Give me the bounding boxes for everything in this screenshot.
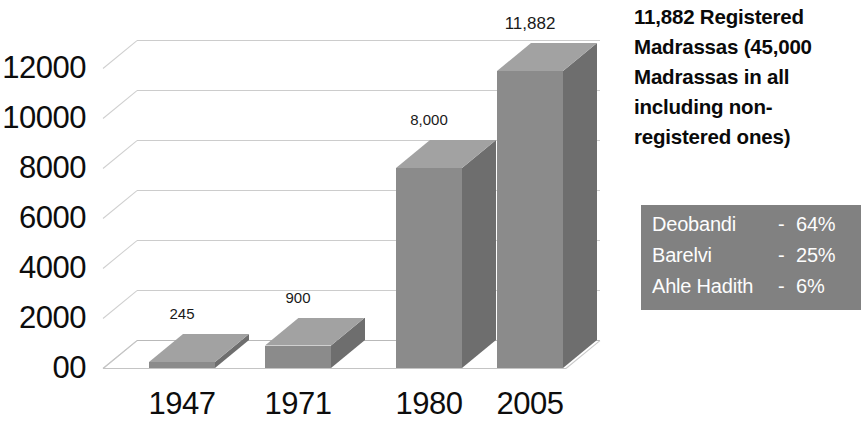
axis-baseline-front (103, 368, 566, 369)
bar-column (265, 318, 331, 369)
gridline-depth-riser (103, 90, 138, 119)
bar-value-label: 900 (235, 290, 361, 305)
plot-area: 1200010000800060004000200000 2459008,000… (0, 0, 620, 431)
breakdown-row-value: 25% (796, 244, 835, 267)
bar-side-face (462, 140, 496, 368)
breakdown-row: Deobandi-64% (652, 213, 855, 244)
breakdown-row-list: Deobandi-64%Barelvi-25%Ahle Hadith-6% (652, 213, 855, 306)
x-axis-category-label: 2005 (457, 388, 603, 419)
breakdown-row-label: Deobandi (652, 213, 778, 236)
bar-value-label: 11,882 (467, 15, 593, 32)
sect-breakdown-panel: Deobandi-64%Barelvi-25%Ahle Hadith-6% (641, 205, 861, 310)
breakdown-row-value: 6% (796, 275, 825, 298)
breakdown-row: Barelvi-25% (652, 244, 855, 275)
bar-front-face (265, 346, 331, 369)
y-axis-tick-label: 12000 (0, 52, 86, 83)
bar-column (396, 140, 462, 368)
bar-side-face (563, 43, 597, 368)
y-axis-tick-label: 2000 (0, 302, 86, 333)
y-axis-tick-label: 00 (0, 352, 86, 383)
gridline-depth-riser (103, 240, 138, 269)
breakdown-row-label: Barelvi (652, 244, 778, 267)
bar-front-face (497, 71, 563, 368)
bar-column (497, 43, 563, 368)
chart-figure: 1200010000800060004000200000 2459008,000… (0, 0, 861, 431)
bar-column (149, 334, 215, 368)
bar-front-face (396, 168, 462, 368)
breakdown-row: Ahle Hadith-6% (652, 275, 855, 306)
gridline-depth-riser (103, 190, 138, 219)
bar-value-label: 245 (119, 306, 245, 321)
y-axis-tick-label: 4000 (0, 252, 86, 283)
breakdown-row-dash: - (778, 213, 796, 236)
annotation-text: 11,882 Registered Madrassas (45,000 Madr… (634, 2, 861, 152)
gridline-depth-riser (103, 40, 138, 69)
breakdown-row-value: 64% (796, 213, 835, 236)
bar-value-label: 8,000 (366, 112, 492, 127)
y-axis-tick-label: 8000 (0, 152, 86, 183)
gridline-depth-riser (103, 140, 138, 169)
breakdown-row-dash: - (778, 244, 796, 267)
breakdown-row-label: Ahle Hadith (652, 275, 778, 298)
bar-front-face (149, 362, 215, 368)
gridline (137, 40, 600, 41)
axis-floor-left-edge (103, 340, 138, 369)
y-axis-tick-label: 6000 (0, 202, 86, 233)
x-axis-category-label: 1971 (225, 388, 371, 419)
y-axis-tick-label: 10000 (0, 102, 86, 133)
breakdown-row-dash: - (778, 275, 796, 298)
